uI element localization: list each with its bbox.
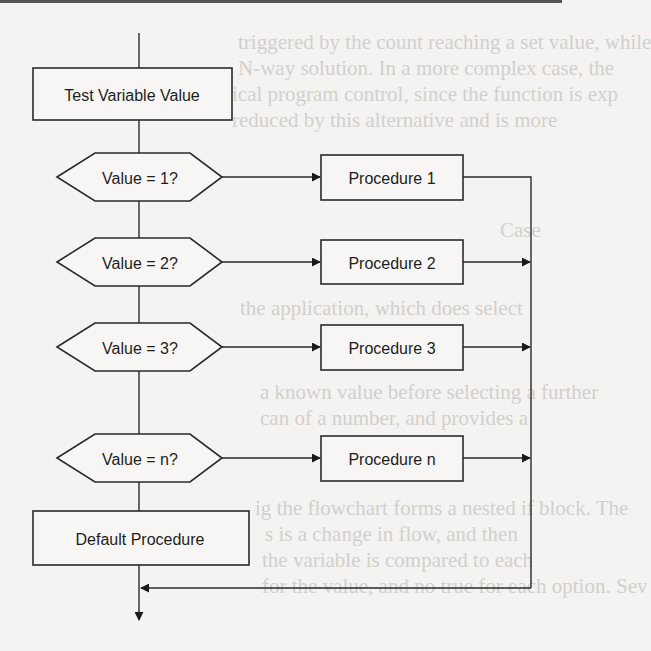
start-box-label: Test Variable Value — [64, 87, 200, 104]
procedure-1-box: Procedure 1 — [321, 155, 463, 200]
decision-1-label: Value = 1? — [102, 170, 178, 187]
procedure-2-label: Procedure 2 — [348, 255, 435, 272]
procedure-n-box: Procedure n — [321, 436, 463, 481]
decision-2-label: Value = 2? — [102, 255, 178, 272]
decision-n-label: Value = n? — [102, 451, 178, 468]
default-procedure-box: Default Procedure — [33, 511, 249, 565]
procedure-1-label: Procedure 1 — [348, 170, 435, 187]
procedure-n-label: Procedure n — [348, 451, 435, 468]
decision-3: Value = 3? — [57, 323, 222, 371]
procedure-2-box: Procedure 2 — [321, 240, 463, 284]
decision-2: Value = 2? — [57, 238, 222, 286]
procedure-3-label: Procedure 3 — [348, 340, 435, 357]
procedure-3-box: Procedure 3 — [321, 325, 463, 370]
start-box: Test Variable Value — [33, 68, 232, 120]
decision-1: Value = 1? — [57, 153, 222, 201]
decision-3-label: Value = 3? — [102, 340, 178, 357]
decision-n: Value = n? — [57, 434, 222, 482]
default-procedure-label: Default Procedure — [76, 531, 205, 548]
connector-p1-to-collector — [463, 177, 531, 588]
